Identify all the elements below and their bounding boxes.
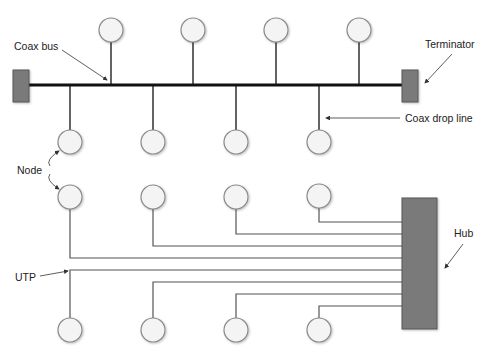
network-topology-diagram: Coax bus Terminator Coax drop line Node … [0, 0, 487, 352]
node-arrow-upper [49, 151, 59, 166]
terminator-right [402, 70, 418, 102]
utp-cable [153, 282, 402, 318]
node-label: Node [17, 164, 42, 176]
utp-cable [153, 208, 402, 246]
bus-node [307, 130, 331, 154]
bus-node [99, 18, 123, 42]
star-node [58, 318, 82, 342]
hub-arrow [445, 244, 463, 268]
star-node [224, 185, 248, 209]
bus-node [181, 18, 205, 42]
utp-cable [319, 208, 402, 222]
star-node [224, 318, 248, 342]
bus-topology [13, 18, 418, 154]
coax-bus-label: Coax bus [14, 40, 58, 52]
node-arrow-lower [49, 174, 59, 189]
utp-label: UTP [15, 271, 36, 283]
star-node [58, 185, 82, 209]
bus-node [264, 18, 288, 42]
terminator-label: Terminator [425, 38, 475, 50]
utp-arrow [40, 271, 68, 276]
hub-label: Hub [454, 227, 473, 239]
coax-drop-line-label: Coax drop line [405, 112, 473, 124]
coax-bus-arrow [62, 50, 107, 80]
star-node [141, 318, 165, 342]
star-node [307, 184, 331, 208]
star-topology [58, 184, 437, 342]
bus-node [141, 130, 165, 154]
bus-node [58, 130, 82, 154]
star-node [141, 185, 165, 209]
terminator-left [13, 70, 29, 102]
terminator-arrow [425, 54, 452, 83]
star-node [307, 318, 331, 342]
hub [402, 198, 437, 329]
bus-node [347, 18, 371, 42]
bus-node [224, 130, 248, 154]
utp-cable [319, 306, 402, 318]
